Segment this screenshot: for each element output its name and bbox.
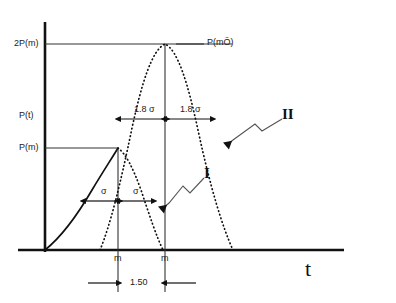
x-tick-label-first-mode: m [114,254,122,263]
sigma-label-curve-two-right: 1.8 σ [180,105,201,114]
figure-canvas: 2P(m) P(m) P(t) P(mÕ) 1.8 σ 1.8 σ σ σ I … [0,0,396,303]
sigma-label-curve-one-left: σ [101,187,107,196]
y-reference-label-2Pm: 2P(m) [14,39,39,48]
callout-leader-one [161,178,204,210]
spacing-measure-label: 1.50 [130,278,148,287]
x-tick-label-second-mode: m [161,254,169,263]
sigma-label-curve-two-left: 1.8 σ [134,105,155,114]
peak-label-right: P(mÕ) [207,38,234,47]
curve-two-dotted [100,44,233,250]
sigma-label-curve-one-right: σ [133,187,139,196]
y-axis-label: P(t) [19,111,34,120]
diagram-svg [0,0,396,303]
y-reference-label-Pm: P(m) [19,143,39,152]
curve-one-solid [45,148,118,250]
x-axis-label: t [305,258,311,280]
callout-leader-two [226,119,282,146]
callout-label-one: I [204,166,210,181]
callout-label-two: II [282,107,294,122]
